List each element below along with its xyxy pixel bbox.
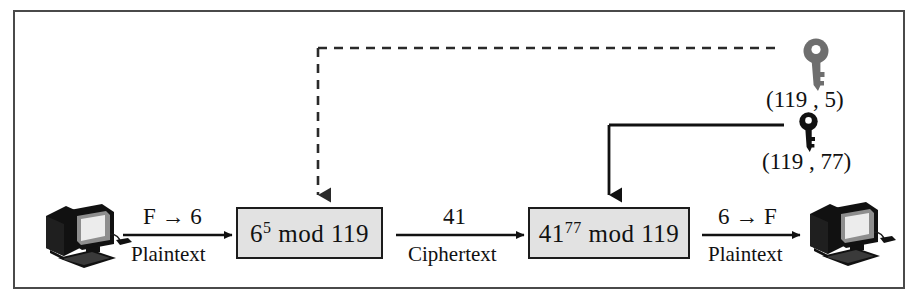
public-key-label: (119 , 5) — [766, 88, 844, 111]
edge-label-receiver-above: 6 → F — [718, 205, 777, 228]
edge-label-sender-above: F → 6 — [143, 205, 202, 228]
private-key-label: (119 , 77) — [762, 150, 851, 173]
encryption-box: 65 mod 119 — [236, 207, 383, 259]
rsa-diagram: 65 mod 119 4177 mod 119 F → 6 Plaintext … — [0, 0, 920, 300]
decryption-expression: 4177 mod 119 — [539, 221, 680, 246]
edge-label-sender-below: Plaintext — [131, 244, 206, 265]
encryption-expression: 65 mod 119 — [250, 221, 369, 246]
decryption-box: 4177 mod 119 — [528, 207, 690, 259]
edge-label-receiver-below: Plaintext — [708, 244, 783, 265]
edge-label-cipher-below: Ciphertext — [408, 244, 497, 265]
edge-label-cipher-above: 41 — [443, 205, 466, 228]
decryption-exponent: 77 — [565, 218, 582, 235]
encryption-exponent: 5 — [263, 218, 272, 235]
